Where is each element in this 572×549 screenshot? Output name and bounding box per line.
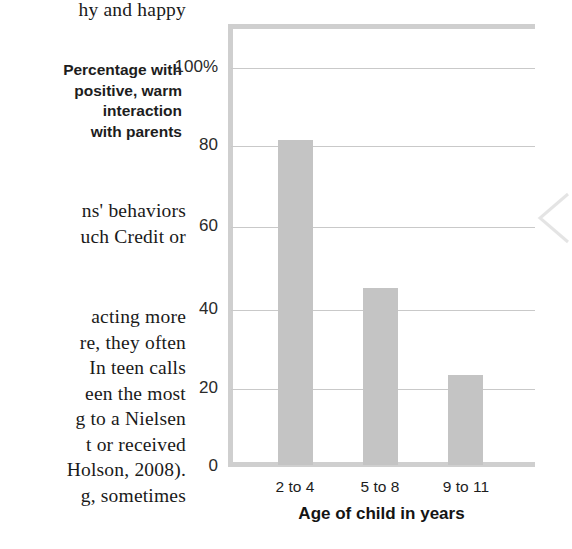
bar-9-to-11[interactable] xyxy=(448,375,483,465)
y-tick-label-0: 0 xyxy=(138,456,218,476)
y-tick-label-20: 20 xyxy=(138,378,218,398)
chart-x-axis-title: Age of child in years xyxy=(228,504,535,524)
y-tick-label-60: 60 xyxy=(138,216,218,236)
y-tick-label-100: 100% xyxy=(138,57,218,77)
gridline-100 xyxy=(231,68,535,69)
page-root: hy and happy ns' behaviors uch Credit or… xyxy=(0,0,572,549)
gridline-80 xyxy=(231,146,535,147)
bar-2-to-4[interactable] xyxy=(278,140,313,465)
bar-5-to-8[interactable] xyxy=(363,288,398,465)
chevron-left-icon xyxy=(534,188,572,248)
bar-chart: 100% 80 60 40 20 0 2 to 4 5 to 8 9 to 11… xyxy=(0,0,572,549)
x-tick-label-9-to-11: 9 to 11 xyxy=(411,478,521,496)
y-tick-label-40: 40 xyxy=(138,299,218,319)
y-tick-label-80: 80 xyxy=(138,135,218,155)
gridline-60 xyxy=(231,227,535,228)
